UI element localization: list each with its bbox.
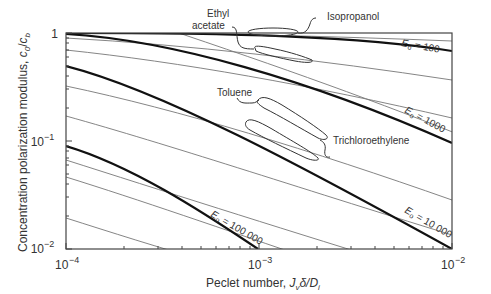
x-tick-label-1e-2: 10 [441, 258, 455, 272]
region-trichloroethylene [245, 120, 318, 160]
y-tick-label-0.1-exp: −1 [44, 132, 54, 142]
x-tick-label-1e-3: 10 [248, 258, 262, 272]
annotation-ethyl-line1: Ethyl [207, 8, 229, 19]
annotation-trichloroethylene: Trichloroethylene [333, 135, 410, 146]
annotation-ethyl-line2: acetate [192, 20, 225, 31]
curve-e0-10000 [66, 66, 452, 249]
curve-e0-100000 [66, 146, 258, 249]
curve-e0-1000 [66, 34, 452, 143]
leader-toluene [237, 98, 259, 103]
x-axis-title: Peclet number, Jvδ/Di [206, 276, 320, 292]
concentration-polarization-chart: 1 10 −1 10 −2 10 −4 10 −3 10 −2 Peclet n… [0, 0, 491, 294]
y-tick-label-0.01: 10 [31, 242, 45, 256]
region-toluene [257, 98, 327, 140]
y-tick-label-0.1: 10 [31, 135, 45, 149]
annotation-toluene: Toluene [217, 87, 252, 98]
x-tick-label-1e-3-exp: −3 [262, 255, 272, 265]
thin-curve [66, 160, 390, 262]
leader-trichloroethylene [320, 140, 330, 157]
leader-isopropanol [298, 18, 316, 33]
y-tick-label-0.01-exp: −2 [44, 239, 54, 249]
thin-curve [66, 218, 210, 262]
x-tick-label-1e-4: 10 [55, 258, 69, 272]
annotation-isopropanol: Isopropanol [327, 11, 379, 22]
x-tick-label-1e-4-exp: −4 [69, 255, 79, 265]
x-tick-label-1e-2-exp: −2 [455, 255, 465, 265]
y-axis-title: Concentration polarization modulus, c0/c… [16, 32, 32, 252]
y-tick-label-1: 1 [51, 27, 58, 41]
